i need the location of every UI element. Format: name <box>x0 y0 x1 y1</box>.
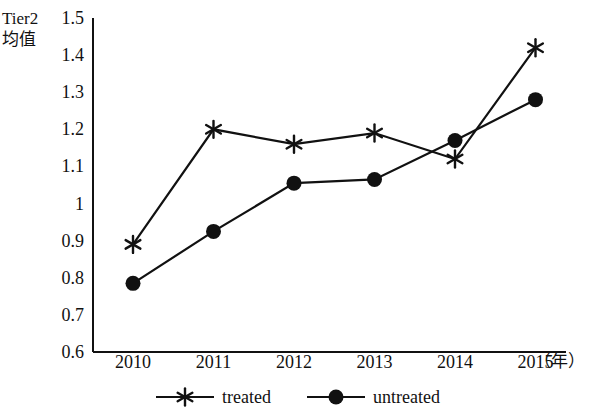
data-point-marker-circle <box>126 276 141 291</box>
data-point-marker-circle <box>367 172 382 187</box>
data-point-marker-circle <box>448 133 463 148</box>
series-line-untreated <box>133 100 536 284</box>
series-line-treated <box>133 48 536 245</box>
legend-marker-asterisk <box>154 386 216 408</box>
series-treated <box>126 39 543 253</box>
legend-item-treated[interactable]: treated <box>154 386 271 408</box>
series-untreated <box>126 92 544 291</box>
data-point-marker-circle <box>528 92 543 107</box>
legend-item-untreated[interactable]: untreated <box>305 386 440 408</box>
data-point-marker-circle <box>287 176 302 191</box>
plot-area <box>0 0 594 417</box>
legend-label: untreated <box>373 388 440 406</box>
data-point-marker-circle <box>206 224 221 239</box>
chart-container: Tier2 均值 1.51.41.31.21.110.90.80.70.6 20… <box>0 0 594 417</box>
legend-marker-filled-circle <box>305 386 367 408</box>
legend-label: treated <box>222 388 271 406</box>
chart-legend: treateduntreated <box>0 386 594 408</box>
